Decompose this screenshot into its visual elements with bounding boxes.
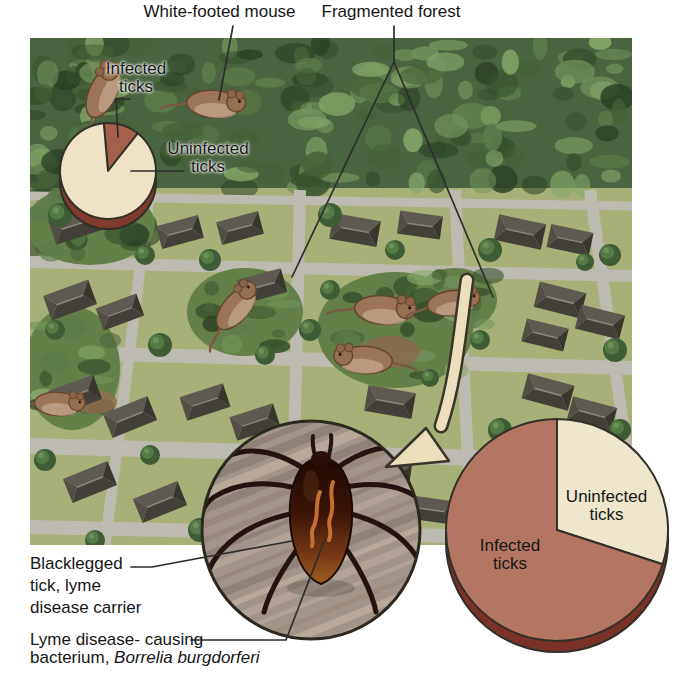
label-infected-ticks-small: Infected ticks [95,60,177,96]
label-line: Infected [465,537,555,555]
caption-line: disease carrier [30,597,142,619]
label-line: ticks [465,555,555,573]
label-uninfected-ticks-small: Uninfected ticks [158,140,258,176]
caption-line: Lyme disease- causing [30,631,260,649]
label-line: ticks [158,158,258,176]
caption-line: tick, lyme [30,575,142,597]
label-line: ticks [95,78,177,96]
caption-blacklegged-tick: Blacklegged tick, lyme disease carrier [30,553,142,619]
caption-roman: bacterium, [30,648,109,667]
label-line: Uninfected [555,488,658,506]
caption-lyme-bacterium: Lyme disease- causing bacterium, Borreli… [30,631,260,667]
tick-palp-right [329,435,331,455]
textbook-figure-lyme-disease: White-footed mouse Fragmented forest Inf… [0,0,685,683]
label-fragmented-forest: Fragmented forest [320,3,462,21]
label-line: ticks [555,506,658,524]
caption-line: Blacklegged [30,553,142,575]
label-uninfected-ticks-large: Uninfected ticks [555,488,658,524]
label-line: Infected [95,60,177,78]
caption-species-italic: Borrelia burgdorferi [114,648,260,667]
label-line: Uninfected [158,140,258,158]
label-infected-ticks-large: Infected ticks [465,537,555,573]
label-white-footed-mouse: White-footed mouse [122,3,317,21]
small-pie-chart [60,123,156,229]
tick-capitulum [311,451,331,467]
caption-line: bacterium, Borrelia burgdorferi [30,649,260,667]
